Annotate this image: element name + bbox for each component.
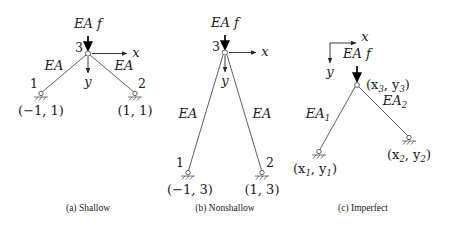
apex-node-label-shallow: 3 <box>75 40 83 55</box>
left-member-label-imperfect: EA1 <box>305 106 330 123</box>
apex-coord-suffix: ) <box>405 77 410 92</box>
x-axis-label-imperfect: x <box>361 29 369 44</box>
right-support-node-nonshallow <box>260 170 264 174</box>
left-member-label-nonshallow: EA <box>178 106 198 121</box>
right-member-label-imperfect: EA2 <box>382 93 407 110</box>
right-node-label-shallow: 2 <box>138 76 146 91</box>
right-coord-label-shallow: (1, 1) <box>118 103 153 118</box>
truss-figure: EA f 3 x y EA EA 1 (−1, 1) <box>0 0 458 226</box>
right-coord-suffix: ) <box>426 147 431 162</box>
panel-shallow: EA f 3 x y EA EA 1 (−1, 1) <box>18 16 152 214</box>
caption-imperfect: (c) Imperfect <box>338 203 388 214</box>
right-member-label-shallow: EA <box>114 58 134 73</box>
apex-node-nonshallow <box>222 50 227 55</box>
right-support-hatching-shallow <box>129 97 140 101</box>
right-coord-label-imperfect: (x2, y2) <box>387 147 431 164</box>
right-support-node-imperfect <box>407 135 411 139</box>
left-node-label-nonshallow: 1 <box>176 155 184 170</box>
apex-node-label-nonshallow: 3 <box>212 39 220 54</box>
left-member-label-shallow: EA <box>44 58 64 73</box>
right-coord-label-nonshallow: (1, 3) <box>245 182 280 197</box>
left-coord-label-shallow: (−1, 1) <box>18 103 64 118</box>
left-support-hatching-imperfect <box>313 155 324 159</box>
left-support-node-imperfect <box>317 149 321 153</box>
y-axis-label-shallow: y <box>83 74 92 89</box>
x-axis-label-shallow: x <box>132 45 140 60</box>
right-member-label-sub: 2 <box>401 100 407 110</box>
left-coord-label-imperfect: (x1, y1) <box>293 161 337 178</box>
right-member-label-nonshallow: EA <box>252 106 272 121</box>
apex-coord-prefix: (x <box>366 77 379 92</box>
panel-nonshallow: EA f 3 x y EA EA 1 (−1, 3) <box>167 15 279 214</box>
right-support-hatching-imperfect <box>403 141 414 145</box>
apex-node-imperfect <box>355 83 360 88</box>
load-label-nonshallow: EA f <box>210 15 241 30</box>
right-member-label-text: EA <box>382 93 402 108</box>
panel-imperfect: x y EA f (x3, y3) EA1 EA2 <box>293 29 431 214</box>
right-support-node-shallow <box>133 91 137 95</box>
load-label-imperfect: EA f <box>342 46 373 61</box>
left-support-node-shallow <box>39 91 43 95</box>
left-coord-label-nonshallow: (−1, 3) <box>167 182 213 197</box>
right-coord-prefix: (x <box>387 147 400 162</box>
right-coord-mid: , y <box>405 147 421 162</box>
caption-nonshallow: (b) Nonshallow <box>195 203 255 214</box>
y-axis-label-imperfect: y <box>325 64 334 79</box>
left-coord-mid: , y <box>311 161 327 176</box>
y-axis-label-nonshallow: y <box>220 73 229 88</box>
x-axis-label-nonshallow: x <box>261 44 269 59</box>
left-member-label-text: EA <box>305 106 325 121</box>
left-member-label-sub: 1 <box>325 113 330 123</box>
load-label-shallow: EA f <box>73 16 104 31</box>
right-support-hatching-nonshallow <box>256 176 267 180</box>
left-node-label-shallow: 1 <box>30 76 38 91</box>
left-coord-suffix: ) <box>332 161 337 176</box>
left-support-node-nonshallow <box>186 170 190 174</box>
left-coord-prefix: (x <box>293 161 306 176</box>
apex-coord-mid: , y <box>384 77 400 92</box>
apex-coord-label-imperfect: (x3, y3) <box>366 77 410 94</box>
left-support-hatching-shallow <box>35 97 46 101</box>
caption-shallow: (a) Shallow <box>66 203 110 214</box>
left-support-hatching-nonshallow <box>182 176 193 180</box>
right-node-label-nonshallow: 2 <box>266 155 274 170</box>
